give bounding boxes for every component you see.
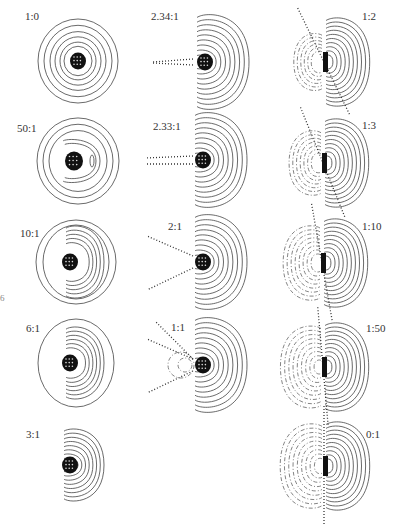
edge-mark: 6 [0, 293, 5, 303]
panel-ratio-2-34-1: 2.34:1 [130, 0, 260, 105]
contour-plot-dipole [270, 420, 400, 527]
panel-ratio-3-1: 3:1 [0, 420, 130, 525]
contour-plot-split-nodal [130, 320, 270, 430]
panel-ratio-2-33-1: 2.33:1 [130, 100, 260, 205]
contour-plot-monopole [0, 0, 130, 105]
panel-ratio-1-1: 1:1 [130, 320, 260, 425]
panel-ratio-2-1: 2:1 [130, 210, 260, 315]
contour-plot-dipole [270, 210, 400, 330]
panel-ratio-6-1: 6:1 [0, 320, 130, 425]
contour-plot-mixed [0, 320, 130, 430]
panel-ratio-1-10: 1:10 [270, 210, 400, 315]
contour-plot-dipole [270, 320, 400, 430]
contour-plot-near-monopole [0, 100, 130, 220]
contour-plot-dipole [270, 0, 400, 110]
panel-ratio-1-50: 1:50 [270, 320, 400, 425]
contour-plot-mixed [0, 210, 130, 330]
panel-ratio-10-1: 10:1 [0, 210, 130, 315]
contour-plot-critical [130, 100, 270, 220]
panel-ratio-0-1: 0:1 [270, 420, 400, 525]
panel-ratio-1-3: 1:3 [270, 100, 400, 205]
panel-ratio-1-2: 1:2 [270, 0, 400, 105]
contour-plot-dipole [270, 100, 400, 220]
contour-plot-mixed [0, 420, 130, 527]
contour-plot-critical [130, 0, 270, 110]
panel-ratio-1-0: 1:0 [0, 0, 130, 105]
contour-plot-split-nodal [130, 210, 270, 330]
panel-ratio-50-1: 50:1 [0, 100, 130, 205]
